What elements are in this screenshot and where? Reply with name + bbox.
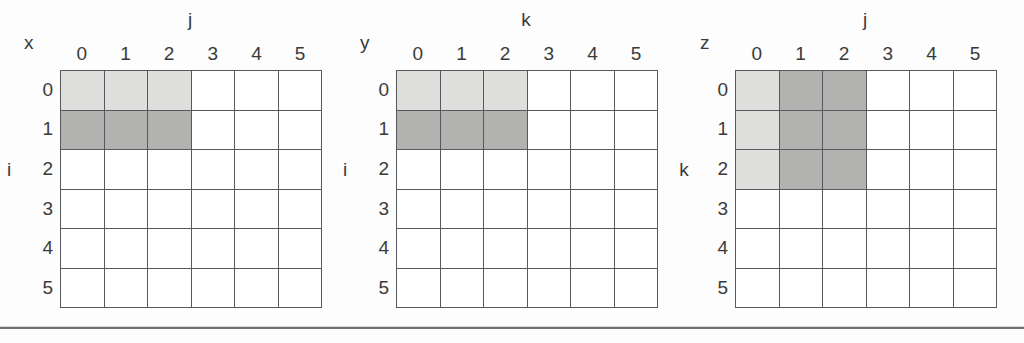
row-header: 3 bbox=[26, 189, 60, 229]
matrix-cell[interactable] bbox=[235, 111, 278, 150]
matrix-grid bbox=[60, 70, 322, 308]
matrix-cell[interactable] bbox=[279, 111, 322, 150]
column-axis-label: j bbox=[180, 10, 200, 29]
row-axis-label: i bbox=[0, 160, 18, 179]
matrix-cell[interactable] bbox=[61, 190, 104, 229]
matrix-cell[interactable] bbox=[235, 229, 278, 268]
matrix-cell[interactable] bbox=[105, 150, 148, 189]
matrix-cell[interactable] bbox=[192, 71, 235, 110]
column-header: 2 bbox=[147, 44, 191, 64]
matrix-cell[interactable] bbox=[148, 190, 191, 229]
matrix-cell[interactable] bbox=[105, 71, 148, 110]
matrix-cell[interactable] bbox=[148, 111, 191, 150]
column-header: 5 bbox=[278, 44, 322, 64]
matrix-name-label: x bbox=[24, 33, 34, 52]
matrix-cell[interactable] bbox=[105, 111, 148, 150]
matrix-cell[interactable] bbox=[61, 229, 104, 268]
matrix-cell[interactable] bbox=[61, 269, 104, 308]
matrix-cell[interactable] bbox=[235, 269, 278, 308]
matrix-cell[interactable] bbox=[61, 111, 104, 150]
matrix-cell[interactable] bbox=[105, 190, 148, 229]
matrix-cell[interactable] bbox=[148, 269, 191, 308]
footer-rule bbox=[0, 327, 1024, 329]
column-header: 3 bbox=[191, 44, 235, 64]
matrix-cell[interactable] bbox=[192, 150, 235, 189]
matrix-cell[interactable] bbox=[148, 150, 191, 189]
matrix-cell[interactable] bbox=[279, 71, 322, 110]
three-matrix-index-diagram: zj012345012345kyk012345012345ixj01234501… bbox=[0, 0, 1024, 343]
matrix-cell[interactable] bbox=[61, 150, 104, 189]
matrix-cell[interactable] bbox=[105, 229, 148, 268]
matrix-cell[interactable] bbox=[192, 269, 235, 308]
row-header: 1 bbox=[26, 110, 60, 150]
matrix-cell[interactable] bbox=[279, 190, 322, 229]
matrix-cell[interactable] bbox=[235, 150, 278, 189]
matrix-cell[interactable] bbox=[192, 190, 235, 229]
matrix-cell[interactable] bbox=[105, 269, 148, 308]
matrix-cell[interactable] bbox=[279, 229, 322, 268]
matrix-cell[interactable] bbox=[148, 229, 191, 268]
row-header: 4 bbox=[26, 229, 60, 269]
column-header: 4 bbox=[235, 44, 279, 64]
matrix-panel-x: xj012345012345i bbox=[0, 0, 1024, 320]
matrix-cell[interactable] bbox=[61, 71, 104, 110]
matrix-cell[interactable] bbox=[235, 190, 278, 229]
matrix-cell[interactable] bbox=[279, 150, 322, 189]
row-header: 5 bbox=[26, 268, 60, 308]
matrix-cell[interactable] bbox=[192, 229, 235, 268]
column-header: 0 bbox=[60, 44, 104, 64]
matrix-cell[interactable] bbox=[192, 111, 235, 150]
column-header-row: 012345 bbox=[60, 44, 322, 64]
row-header-column: 012345 bbox=[26, 70, 60, 308]
row-header: 2 bbox=[26, 149, 60, 189]
matrix-cell[interactable] bbox=[279, 269, 322, 308]
column-header: 1 bbox=[104, 44, 148, 64]
row-header: 0 bbox=[26, 70, 60, 110]
matrix-cell[interactable] bbox=[148, 71, 191, 110]
matrix-cell[interactable] bbox=[235, 71, 278, 110]
